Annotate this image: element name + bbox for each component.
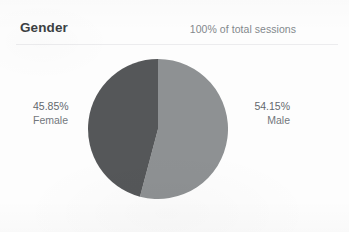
pie-label-male-percent: 54.15% (254, 99, 290, 113)
card-subtitle: 100% of total sessions (190, 23, 296, 35)
pie-label-female: 45.85% Female (33, 99, 69, 127)
header-divider (16, 44, 338, 45)
page-title: Gender (20, 20, 68, 35)
gender-pie-chart (88, 59, 228, 199)
pie-label-female-name: Female (33, 113, 69, 127)
gender-report-card: Gender 100% of total sessions 45.85% Fem… (0, 0, 349, 232)
pie-label-male-name: Male (254, 113, 290, 127)
pie-label-male: 54.15% Male (254, 99, 290, 127)
pie-label-female-percent: 45.85% (33, 99, 69, 113)
card-header: Gender 100% of total sessions (0, 20, 349, 46)
